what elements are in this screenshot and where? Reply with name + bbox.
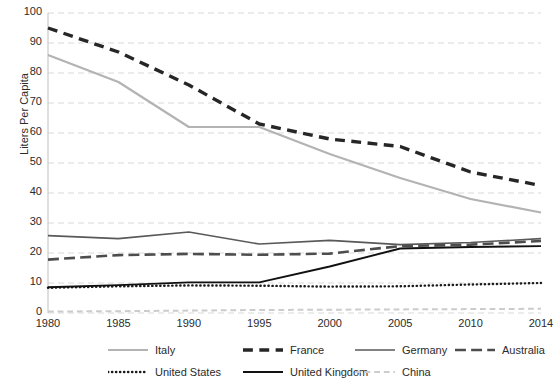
legend-label: France [290, 344, 324, 356]
series-line-china [48, 309, 541, 312]
y-tick-label: 30 [12, 215, 42, 227]
x-tick-label: 1990 [164, 317, 214, 329]
series-line-france [48, 28, 541, 186]
legend-item-france[interactable]: France [243, 342, 324, 358]
legend-swatch-icon [243, 366, 283, 378]
y-tick-label: 40 [12, 185, 42, 197]
x-tick-label: 1995 [234, 317, 284, 329]
legend-item-italy[interactable]: Italy [108, 342, 175, 358]
legend-item-united-kingdom[interactable]: United Kingdom [243, 364, 368, 380]
legend-item-australia[interactable]: Australia [455, 342, 545, 358]
series-line-germany [48, 232, 541, 245]
series-line-united-kingdom [48, 246, 541, 287]
x-tick-label: 2010 [446, 317, 496, 329]
y-tick-label: 60 [12, 125, 42, 137]
y-tick-label: 80 [12, 65, 42, 77]
legend-item-germany[interactable]: Germany [355, 342, 447, 358]
y-tick-label: 100 [12, 5, 42, 17]
legend-item-united-states[interactable]: United States [108, 364, 221, 380]
legend-swatch-icon [355, 344, 395, 356]
series-line-australia [48, 241, 541, 260]
y-tick-label: 20 [12, 245, 42, 257]
y-tick-label: 90 [12, 35, 42, 47]
x-tick-label: 1980 [23, 317, 73, 329]
legend-swatch-icon [243, 344, 283, 356]
series-line-italy [48, 55, 541, 213]
x-tick-label: 2014 [516, 317, 558, 329]
x-tick-label: 2000 [305, 317, 355, 329]
x-tick-label: 2005 [375, 317, 425, 329]
legend-swatch-icon [355, 366, 395, 378]
chart-legend: ItalyFranceGermanyAustraliaUnited States… [0, 338, 551, 385]
y-tick-label: 0 [12, 305, 42, 317]
legend-label: United States [155, 366, 221, 378]
y-tick-label: 10 [12, 275, 42, 287]
legend-label: China [402, 366, 431, 378]
legend-item-china[interactable]: China [355, 364, 431, 380]
legend-label: Australia [502, 344, 545, 356]
legend-label: Germany [402, 344, 447, 356]
y-tick-label: 70 [12, 95, 42, 107]
x-tick-label: 1985 [93, 317, 143, 329]
legend-label: Italy [155, 344, 175, 356]
y-tick-label: 50 [12, 155, 42, 167]
legend-swatch-icon [455, 344, 495, 356]
legend-swatch-icon [108, 366, 148, 378]
legend-swatch-icon [108, 344, 148, 356]
